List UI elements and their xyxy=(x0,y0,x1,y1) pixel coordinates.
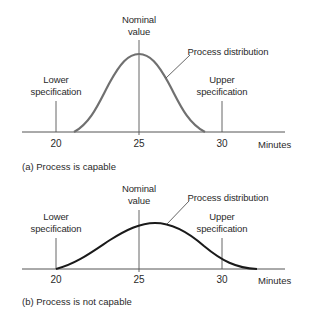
lower-spec-line1: Lower xyxy=(31,211,82,223)
nominal-label-line2: value xyxy=(122,195,156,207)
panel-a-tick-30: 30 xyxy=(216,138,227,150)
panel-a-distribution-leader xyxy=(166,55,190,78)
panel-b-tick-25: 25 xyxy=(133,274,144,286)
panel-b-lower-spec-label: Lower specification xyxy=(31,211,82,235)
upper-spec-line1: Upper xyxy=(197,74,248,86)
panel-b-tick-30: 30 xyxy=(216,274,227,286)
panel-b-upper-spec-label: Upper specification xyxy=(197,211,248,235)
panel-b-tick-20: 20 xyxy=(50,274,61,286)
upper-spec-line2: specification xyxy=(197,223,248,235)
upper-spec-line1: Upper xyxy=(197,211,248,223)
panel-a-upper-spec-label: Upper specification xyxy=(197,74,248,98)
nominal-label-line2: value xyxy=(122,26,156,38)
panel-a-distribution-label: Process distribution xyxy=(188,46,269,58)
lower-spec-line2: specification xyxy=(31,86,82,98)
nominal-label-line1: Nominal xyxy=(122,14,156,26)
panel-b-nominal-label: Nominal value xyxy=(122,183,156,207)
panel-a-unit-label: Minutes xyxy=(258,139,291,151)
panel-b-unit-label: Minutes xyxy=(258,275,291,287)
panel-a-lower-spec-label: Lower specification xyxy=(31,74,82,98)
panel-b-caption: (b) Process is not capable xyxy=(22,296,132,308)
panel-a-distribution-curve xyxy=(74,54,205,132)
lower-spec-line1: Lower xyxy=(31,74,82,86)
upper-spec-line2: specification xyxy=(197,86,248,98)
panel-a-tick-25: 25 xyxy=(133,138,144,150)
panel-b-distribution-leader xyxy=(167,201,189,224)
panel-a-tick-20: 20 xyxy=(50,138,61,150)
lower-spec-line2: specification xyxy=(31,223,82,235)
panel-a-caption: (a) Process is capable xyxy=(22,161,116,173)
panel-a-nominal-label: Nominal value xyxy=(122,14,156,38)
panel-b-distribution-label: Process distribution xyxy=(188,192,269,204)
nominal-label-line1: Nominal xyxy=(122,183,156,195)
